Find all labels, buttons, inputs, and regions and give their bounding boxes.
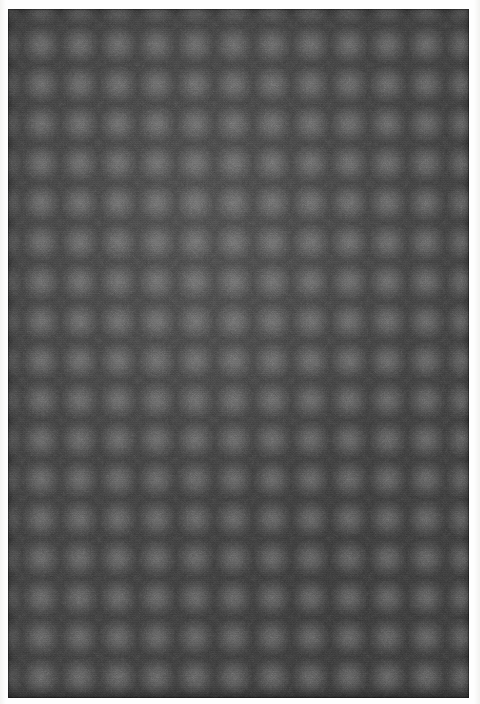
coarse-grain-layer bbox=[8, 9, 469, 698]
image-canvas bbox=[0, 0, 480, 704]
image-caption bbox=[8, 698, 469, 704]
texture-panel bbox=[8, 9, 469, 698]
